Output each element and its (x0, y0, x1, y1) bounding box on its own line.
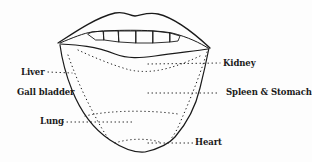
lower-lip (60, 44, 208, 58)
label-kidney: Kidney (223, 58, 256, 68)
label-lung: Lung (40, 116, 64, 126)
label-liver: Liver (21, 67, 45, 77)
tongue-drawing (0, 0, 312, 162)
label-heart: Heart (195, 137, 222, 147)
tongue-diagram: Kidney Liver Gall bladder Spleen & Stoma… (0, 0, 312, 162)
teeth (88, 31, 180, 43)
tongue-outline (60, 45, 209, 152)
label-spleen-stomach: Spleen & Stomach (226, 87, 312, 97)
label-gall-bladder: Gall bladder (17, 87, 74, 97)
